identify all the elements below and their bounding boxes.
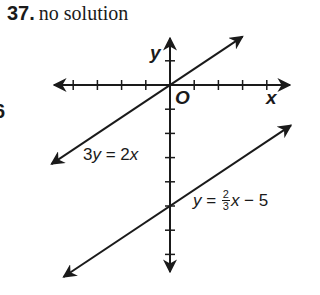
- graph-line-1: [51, 37, 242, 164]
- x-axis-label: x: [266, 89, 277, 107]
- origin-label: O: [175, 89, 190, 107]
- line1-equation-label: 3y = 2x: [83, 146, 138, 164]
- y-axis-label: y: [150, 44, 161, 62]
- fraction-two-thirds: 23: [222, 189, 230, 212]
- line2-equation-label: y = 23x − 5: [193, 190, 268, 213]
